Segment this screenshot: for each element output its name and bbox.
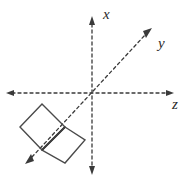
- diagram-canvas: z x y: [0, 0, 191, 181]
- axis-y-line: [32, 35, 145, 157]
- axis-label-x: x: [102, 6, 110, 22]
- shared-edge: [42, 127, 65, 150]
- square-upper-left: [20, 104, 65, 150]
- axis-label-y: y: [156, 35, 165, 51]
- axis-x-arrow-positive: [89, 16, 95, 25]
- tilted-squares-group: [20, 104, 85, 163]
- square-lower-right: [42, 127, 85, 163]
- axis-z-arrow-negative: [6, 90, 14, 96]
- figure-root: z x y: [0, 0, 191, 181]
- axis-label-z: z: [171, 96, 178, 112]
- axis-x-arrow-negative: [89, 166, 95, 175]
- axis-x: x: [89, 6, 110, 175]
- axis-y: y: [25, 28, 165, 164]
